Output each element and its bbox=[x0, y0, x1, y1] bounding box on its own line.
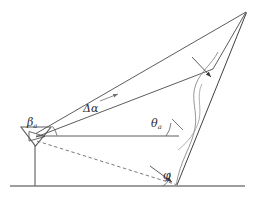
wavefront-curve bbox=[176, 52, 218, 186]
label-delta-alpha: Δα bbox=[83, 103, 98, 114]
angle-arc-beta bbox=[53, 126, 58, 135]
label-phi: φ bbox=[163, 170, 171, 181]
wavefront-curve-secondary bbox=[178, 84, 202, 150]
angle-arc-theta bbox=[166, 123, 171, 136]
label-beta-a: βa bbox=[27, 117, 37, 128]
geometry-vector-layer bbox=[0, 0, 259, 200]
diagram-canvas: βa Δα θa φ bbox=[0, 0, 259, 200]
ray-incident-dashed bbox=[37, 141, 176, 185]
ray-antenna-to-apex bbox=[36, 12, 246, 134]
ray-antenna-to-target bbox=[36, 69, 213, 137]
label-theta-a: θa bbox=[151, 118, 162, 129]
ray-ground-to-apex bbox=[177, 13, 247, 186]
arrow-indicator-theta bbox=[172, 119, 183, 130]
ray-target-to-apex bbox=[213, 12, 246, 69]
